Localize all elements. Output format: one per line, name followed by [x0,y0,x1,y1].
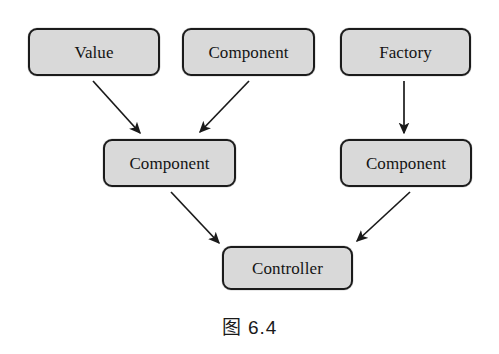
node-controller[interactable]: Controller [222,246,353,290]
arrow-component-top-to-component [200,81,249,132]
figure-caption: 图 6.4 [0,312,499,339]
node-component-mid-left[interactable]: Component [103,139,236,187]
node-label: Component [208,44,288,61]
node-value[interactable]: Value [28,28,160,76]
arrow-component-left-to-controller [171,192,219,243]
node-label: Value [74,44,113,61]
node-factory[interactable]: Factory [340,28,471,76]
node-component-mid-right[interactable]: Component [340,139,472,187]
node-label: Component [129,155,209,172]
node-label: Controller [252,260,323,277]
node-label: Factory [379,44,432,61]
arrow-value-to-component [93,81,140,133]
arrow-component-right-to-controller [357,192,410,241]
node-component-top[interactable]: Component [182,28,315,76]
node-label: Component [366,155,446,172]
figure-canvas: ValueComponentFactoryComponentComponentC… [0,0,499,354]
